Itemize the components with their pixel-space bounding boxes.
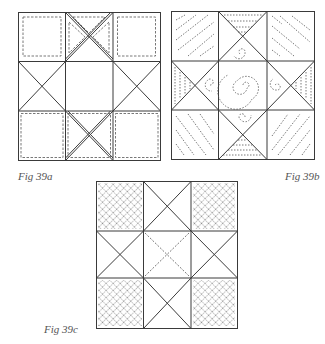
- caption-fig-39c: Fig 39c: [44, 323, 78, 335]
- figure-39c-diagram: [0, 0, 325, 344]
